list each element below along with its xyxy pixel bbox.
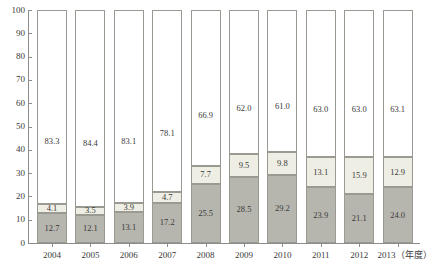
x-axis-tick bbox=[90, 243, 91, 247]
bar-segment-top bbox=[229, 10, 259, 154]
y-axis-tick-label-text: 80 bbox=[1, 52, 25, 61]
bar-2011: 23.913.163.0 bbox=[306, 10, 336, 243]
x-axis-tick bbox=[321, 243, 322, 247]
bar-segment-top bbox=[344, 10, 374, 157]
y-axis-tick-label: 30 bbox=[0, 169, 25, 178]
y-axis-tick-label-text: 100 bbox=[1, 6, 25, 15]
bar-2008: 25.57.766.9 bbox=[191, 10, 221, 243]
x-axis-tick bbox=[282, 243, 283, 247]
bar-value-label-bottom: 21.1 bbox=[344, 214, 374, 223]
y-axis-tick bbox=[28, 127, 32, 128]
y-axis-tick bbox=[28, 80, 32, 81]
bar-value-label-top: 84.4 bbox=[75, 139, 105, 148]
y-axis-tick bbox=[28, 173, 32, 174]
bar-value-label-top: 63.0 bbox=[344, 105, 374, 114]
bar-value-label-bottom: 28.5 bbox=[229, 205, 259, 214]
bar-2012: 21.115.963.0 bbox=[344, 10, 374, 243]
y-axis-tick-label-text: 40 bbox=[1, 145, 25, 154]
y-axis-tick bbox=[28, 243, 32, 244]
stacked-bar-chart: 0102030405060708090100 20042005200620072… bbox=[0, 0, 436, 270]
y-axis-tick bbox=[28, 220, 32, 221]
bar-value-label-middle: 13.1 bbox=[306, 168, 336, 177]
y-axis-tick bbox=[28, 10, 32, 11]
bar-value-label-middle: 12.9 bbox=[383, 168, 413, 177]
bar-value-label-middle: 9.5 bbox=[229, 161, 259, 170]
y-axis-tick-label: 100 bbox=[0, 6, 25, 15]
bar-value-label-top: 83.1 bbox=[114, 137, 144, 146]
bar-value-label-top: 63.0 bbox=[306, 105, 336, 114]
y-axis-tick-label-text: 60 bbox=[1, 99, 25, 108]
x-axis-tick-label: 2013（年度） bbox=[370, 250, 436, 260]
y-axis-tick bbox=[28, 196, 32, 197]
y-axis-tick bbox=[28, 57, 32, 58]
y-axis-tick bbox=[28, 33, 32, 34]
y-axis-tick bbox=[28, 150, 32, 151]
bar-value-label-bottom: 29.2 bbox=[267, 204, 297, 213]
bar-value-label-bottom: 25.5 bbox=[191, 209, 221, 218]
x-axis-tick bbox=[206, 243, 207, 247]
y-axis-tick-label-text: 30 bbox=[1, 169, 25, 178]
x-axis-line bbox=[28, 243, 420, 244]
bar-segment-top bbox=[114, 10, 144, 204]
bar-value-label-top: 62.0 bbox=[229, 104, 259, 113]
bar-2009: 28.59.562.0 bbox=[229, 10, 259, 243]
y-axis-tick-label: 20 bbox=[0, 192, 25, 201]
bar-value-label-top: 61.0 bbox=[267, 102, 297, 111]
bar-2007: 17.24.778.1 bbox=[152, 10, 182, 243]
bar-segment-top bbox=[152, 10, 182, 192]
x-axis-tick bbox=[244, 243, 245, 247]
bar-value-label-bottom: 13.1 bbox=[114, 223, 144, 232]
bar-value-label-bottom: 12.1 bbox=[75, 224, 105, 233]
bar-segment-top bbox=[75, 10, 105, 207]
bar-segment-top bbox=[267, 10, 297, 152]
bar-2004: 12.74.183.3 bbox=[37, 10, 67, 243]
y-axis-tick-label: 50 bbox=[0, 122, 25, 131]
y-axis-tick-label-text: 50 bbox=[1, 122, 25, 131]
x-axis-tick bbox=[129, 243, 130, 247]
bar-value-label-top: 78.1 bbox=[152, 129, 182, 138]
bar-value-label-top: 63.1 bbox=[383, 105, 413, 114]
bar-value-label-middle: 3.9 bbox=[114, 203, 144, 212]
bar-value-label-top: 83.3 bbox=[37, 137, 67, 146]
y-axis-tick-label-text: 0 bbox=[1, 239, 25, 248]
bar-value-label-bottom: 12.7 bbox=[37, 224, 67, 233]
bar-segment-top bbox=[383, 10, 413, 157]
bar-2013: 24.012.963.1 bbox=[383, 10, 413, 243]
bar-value-label-middle: 4.1 bbox=[37, 204, 67, 213]
bar-value-label-middle: 4.7 bbox=[152, 193, 182, 202]
bar-2006: 13.13.983.1 bbox=[114, 10, 144, 243]
x-axis-tick bbox=[359, 243, 360, 247]
bar-value-label-middle: 9.8 bbox=[267, 159, 297, 168]
bar-segment-top bbox=[191, 10, 221, 166]
x-axis-tick bbox=[167, 243, 168, 247]
bar-value-label-middle: 3.5 bbox=[75, 206, 105, 215]
bar-2005: 12.13.584.4 bbox=[75, 10, 105, 243]
bar-value-label-bottom: 17.2 bbox=[152, 218, 182, 227]
y-axis-tick bbox=[28, 103, 32, 104]
y-axis-tick-label-text: 70 bbox=[1, 75, 25, 84]
bar-value-label-middle: 15.9 bbox=[344, 171, 374, 180]
bar-2010: 29.29.861.0 bbox=[267, 10, 297, 243]
y-axis-tick-label-text: 10 bbox=[1, 215, 25, 224]
y-axis-tick-label: 60 bbox=[0, 99, 25, 108]
x-axis-tick bbox=[398, 243, 399, 247]
y-axis-tick-label: 90 bbox=[0, 29, 25, 38]
bar-value-label-top: 66.9 bbox=[191, 111, 221, 120]
y-axis-tick-label: 0 bbox=[0, 239, 25, 248]
y-axis-tick-label: 70 bbox=[0, 75, 25, 84]
y-axis-tick-label-text: 90 bbox=[1, 29, 25, 38]
y-axis-tick-label-text: 20 bbox=[1, 192, 25, 201]
y-axis-tick-label: 40 bbox=[0, 145, 25, 154]
bar-value-label-bottom: 24.0 bbox=[383, 211, 413, 220]
y-axis-tick-label: 10 bbox=[0, 215, 25, 224]
bar-segment-top bbox=[306, 10, 336, 157]
bar-value-label-middle: 7.7 bbox=[191, 170, 221, 179]
bar-value-label-bottom: 23.9 bbox=[306, 211, 336, 220]
y-axis-tick-label: 80 bbox=[0, 52, 25, 61]
bar-segment-top bbox=[37, 10, 67, 204]
x-axis-tick bbox=[52, 243, 53, 247]
